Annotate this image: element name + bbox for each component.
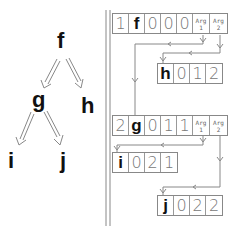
record-name: j — [158, 196, 174, 215]
arg-number: 1 — [199, 24, 203, 31]
arg-label: Arg — [196, 119, 207, 126]
record-field: 0 — [145, 14, 161, 33]
record-field: 1 — [177, 116, 193, 135]
record-name: g — [129, 116, 145, 135]
arg-number: 2 — [217, 24, 221, 31]
record-j: j 0 2 2 — [157, 195, 223, 216]
arg-label: Arg — [213, 17, 224, 24]
record-field: 0 — [145, 116, 161, 135]
record-field: 2 — [206, 64, 222, 83]
tree-arrow-f-h — [66, 58, 83, 88]
record-field: 1 — [190, 64, 206, 83]
arg-label: Arg — [213, 119, 224, 126]
arg-number: 2 — [217, 126, 221, 133]
record-arg2: Arg 2 — [210, 116, 227, 135]
record-field: 2 — [206, 196, 222, 215]
record-g: 2 g 0 1 1 Arg 1 Arg 2 — [112, 115, 228, 136]
pointer-f-arg2-h — [163, 35, 220, 63]
record-f: 1 f 0 0 0 Arg 1 Arg 2 — [112, 13, 228, 34]
record-index: 2 — [113, 116, 129, 135]
record-name: h — [158, 64, 174, 83]
record-field: 0 — [129, 153, 145, 172]
tree-arrow-f-g — [41, 59, 60, 88]
record-field: 0 — [177, 14, 193, 33]
arg-number: 1 — [199, 126, 203, 133]
pointer-g-arg1-i — [117, 134, 203, 152]
record-index: 1 — [113, 14, 129, 33]
record-field: 0 — [174, 64, 190, 83]
record-field: 2 — [145, 153, 161, 172]
record-arg1: Arg 1 — [193, 116, 210, 135]
record-field: 0 — [174, 196, 190, 215]
record-name: i — [113, 153, 129, 172]
record-i: i 0 2 1 — [112, 152, 178, 173]
tree-arrow-g-j — [44, 111, 63, 145]
record-field: 2 — [190, 196, 206, 215]
tree-arrow-g-i — [16, 112, 34, 145]
record-h: h 0 1 2 — [157, 63, 223, 84]
record-arg1: Arg 1 — [193, 14, 210, 33]
record-arg2: Arg 2 — [210, 14, 227, 33]
record-field: 1 — [161, 153, 177, 172]
record-field: 0 — [161, 14, 177, 33]
record-name: f — [129, 14, 145, 33]
record-field: 1 — [161, 116, 177, 135]
arg-label: Arg — [196, 17, 207, 24]
